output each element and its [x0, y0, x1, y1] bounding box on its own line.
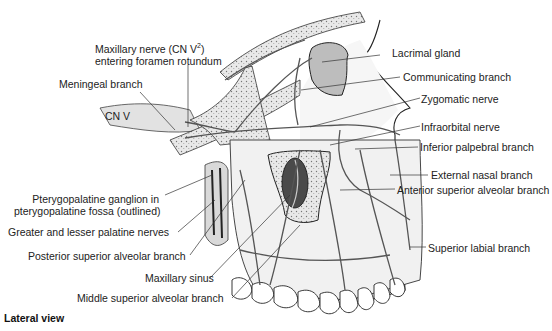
- label-text: pterygopalatine fossa (outlined): [14, 205, 161, 217]
- view-caption: Lateral view: [4, 312, 64, 324]
- label-pterygopalatine-ganglion: Pterygopalatine ganglion in pterygopalat…: [14, 193, 159, 217]
- label-palatine-nerves: Greater and lesser palatine nerves: [8, 226, 169, 238]
- label-zygomatic-nerve: Zygomatic nerve: [421, 93, 499, 105]
- label-lacrimal-gland: Lacrimal gland: [392, 47, 460, 59]
- anatomy-figure: Maxillary nerve (CN V2) entering foramen…: [0, 0, 552, 331]
- label-superior-labial: Superior labial branch: [428, 242, 530, 254]
- label-text: entering foramen rotundum: [95, 55, 222, 67]
- label-infraorbital-nerve: Infraorbital nerve: [421, 121, 500, 133]
- pterygopalatine-fossa: [205, 162, 228, 246]
- label-text: Maxillary nerve (CN V: [95, 43, 197, 55]
- label-communicating-branch: Communicating branch: [403, 71, 511, 83]
- label-text: ): [201, 43, 205, 55]
- maxillary-nerve-illustration: [0, 0, 552, 331]
- label-cn-v: CN V: [105, 110, 130, 122]
- label-anterior-superior-alveolar: Anterior superior alveolar branch: [397, 184, 549, 196]
- label-external-nasal: External nasal branch: [431, 169, 533, 181]
- label-maxillary-sinus: Maxillary sinus: [145, 272, 214, 284]
- label-middle-superior-alveolar: Middle superior alveolar branch: [77, 292, 224, 304]
- label-meningeal-branch: Meningeal branch: [59, 78, 142, 90]
- label-text: Pterygopalatine ganglion in: [32, 193, 159, 205]
- label-maxillary-nerve: Maxillary nerve (CN V2) entering foramen…: [95, 40, 222, 67]
- label-inferior-palpebral: Inferior palpebral branch: [420, 141, 534, 153]
- label-posterior-superior-alveolar: Posterior superior alveolar branch: [28, 250, 186, 262]
